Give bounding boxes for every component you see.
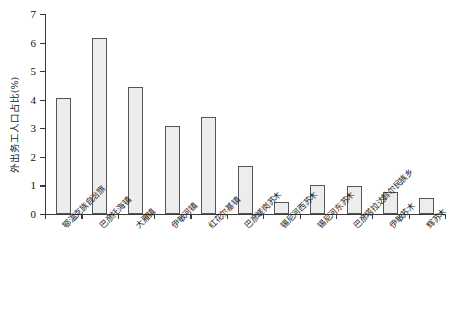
bar xyxy=(274,202,289,214)
y-axis-line xyxy=(45,14,46,214)
y-tick-label: 4 xyxy=(31,94,37,105)
bar xyxy=(310,185,325,214)
y-tick-mark xyxy=(40,43,45,44)
x-tick-mark xyxy=(336,214,337,219)
y-tick-label: 3 xyxy=(31,123,37,134)
x-tick-mark xyxy=(118,214,119,219)
plot-area: 01234567 xyxy=(45,14,445,214)
x-tick-mark xyxy=(45,214,46,219)
bar xyxy=(238,166,253,214)
y-tick-mark xyxy=(40,14,45,15)
y-tick-mark xyxy=(40,71,45,72)
y-tick-label: 6 xyxy=(31,37,37,48)
y-tick-label: 7 xyxy=(31,9,37,20)
x-tick-mark xyxy=(409,214,410,219)
y-tick-mark xyxy=(40,157,45,158)
y-tick-mark xyxy=(40,128,45,129)
bar-chart: 外出务工人口占比(%) 01234567 鄂温克族自治旗巴彦托海镇大雁镇伊敏河镇… xyxy=(0,0,462,330)
y-tick-label: 5 xyxy=(31,66,37,77)
x-tick-mark xyxy=(227,214,228,219)
x-tick-mark xyxy=(445,214,446,219)
y-tick-mark xyxy=(40,100,45,101)
x-tick-mark xyxy=(154,214,155,219)
bar xyxy=(92,38,107,214)
bar xyxy=(165,126,180,214)
y-tick-mark xyxy=(40,185,45,186)
y-tick-label: 0 xyxy=(31,209,37,220)
bar xyxy=(383,192,398,214)
bar xyxy=(56,98,71,214)
x-tick-mark xyxy=(300,214,301,219)
y-tick-label: 1 xyxy=(31,180,37,191)
x-tick-mark xyxy=(263,214,264,219)
bar xyxy=(419,198,434,214)
bar xyxy=(201,117,216,214)
x-tick-mark xyxy=(81,214,82,219)
y-axis-title: 外出务工人口占比(%) xyxy=(7,45,21,205)
x-tick-mark xyxy=(190,214,191,219)
x-axis-line xyxy=(45,214,445,215)
bar xyxy=(128,87,143,214)
y-tick-label: 2 xyxy=(31,151,37,162)
bar xyxy=(347,186,362,214)
x-tick-mark xyxy=(372,214,373,219)
